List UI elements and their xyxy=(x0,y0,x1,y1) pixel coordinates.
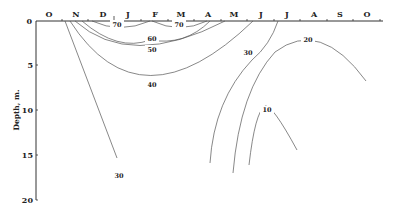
contour-labels: 70 70 60 50 40 30 30 20 10 xyxy=(110,20,315,180)
contour-label: 40 xyxy=(147,81,157,89)
y-tick-label: 15 xyxy=(22,150,33,160)
y-axis-label: Depth, m. xyxy=(12,89,21,130)
month-label: F xyxy=(152,9,158,19)
month-label: O xyxy=(364,9,371,19)
y-tick-label: 0 xyxy=(26,16,32,26)
month-label: J xyxy=(284,9,289,19)
month-label: A xyxy=(204,9,212,19)
depth-time-contour-chart: O N D J F M A M J J A S O 0 5 10 15 20 D… xyxy=(0,0,396,214)
contour-20 xyxy=(233,40,366,173)
x-tick-labels: O N D J F M A M J J A S O xyxy=(46,9,371,19)
contour-10 xyxy=(249,106,297,165)
contour-label: 30 xyxy=(243,49,253,57)
contour-label: 20 xyxy=(303,36,313,44)
x-ticks xyxy=(62,16,380,21)
month-label: O xyxy=(46,9,53,19)
contour-30-left xyxy=(65,21,117,158)
month-label: N xyxy=(72,9,79,19)
contour-label: 60 xyxy=(147,35,157,43)
y-tick-label: 5 xyxy=(27,60,33,70)
contour-lines xyxy=(65,21,366,173)
month-label: S xyxy=(337,9,343,19)
contour-label: 70 xyxy=(174,21,184,29)
month-label: J xyxy=(125,9,130,19)
contour-label: 50 xyxy=(147,46,157,54)
y-tick-label: 20 xyxy=(22,195,34,205)
contour-30-right xyxy=(210,21,278,163)
contour-label: 70 xyxy=(112,21,122,29)
month-label: M xyxy=(177,9,186,19)
month-label: A xyxy=(310,9,318,19)
y-tick-labels: 0 5 10 15 20 xyxy=(22,16,34,205)
contour-label: 30 xyxy=(114,172,124,180)
month-label: D xyxy=(100,9,107,19)
month-label: J xyxy=(258,9,263,19)
y-tick-label: 10 xyxy=(22,105,34,115)
contour-40 xyxy=(70,21,253,76)
month-label: M xyxy=(230,9,239,19)
contour-label: 10 xyxy=(262,106,272,114)
